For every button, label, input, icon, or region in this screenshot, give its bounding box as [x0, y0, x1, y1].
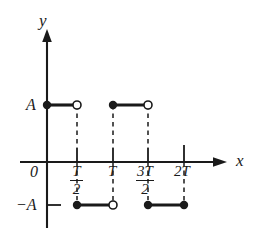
x-tick-label-three-half-T-numerator: 3T: [136, 164, 154, 180]
dashed-connectors-group: [77, 105, 184, 205]
x-axis-group: [20, 157, 227, 167]
x-axis-label: x: [236, 152, 244, 169]
marker-filled-segment-1-start: [43, 101, 51, 109]
x-tick-label-three-half-T-denominator: 2: [140, 181, 150, 197]
marker-open-segment-2-end: [109, 201, 117, 209]
marker-filled-segment-2-start: [73, 201, 81, 209]
waveform-segments-group: [47, 105, 184, 205]
y-tick-label-minus-A: −A: [16, 197, 37, 213]
x-tick-label-two-T: 2T: [174, 164, 190, 179]
x-tick-label-half-T-denominator: 2: [72, 181, 82, 197]
x-axis-arrow-icon: [213, 157, 227, 167]
y-axis-arrow-icon: [42, 29, 52, 42]
origin-label: 0: [30, 164, 38, 180]
endpoint-markers-group: [43, 101, 188, 209]
y-axis-group: [42, 29, 52, 228]
marker-filled-segment-4-start: [144, 201, 152, 209]
square-wave-plot: [0, 0, 264, 249]
marker-open-segment-3-end: [144, 101, 152, 109]
marker-open-segment-1-end: [73, 101, 81, 109]
y-axis-label: y: [39, 12, 47, 29]
x-tick-label-T: T: [108, 164, 116, 179]
x-tick-label-three-half-T: 3T 2: [136, 164, 154, 197]
figure-canvas: y x 0 A −A T 2 T 3T 2 2T: [0, 0, 264, 249]
marker-filled-segment-3-start: [109, 101, 117, 109]
y-tick-label-A: A: [26, 97, 36, 113]
x-tick-label-half-T-numerator: T: [71, 164, 81, 180]
x-tick-marks-group: [77, 145, 184, 162]
marker-filled-segment-4-end: [180, 201, 188, 209]
x-tick-label-half-T: T 2: [70, 164, 83, 197]
